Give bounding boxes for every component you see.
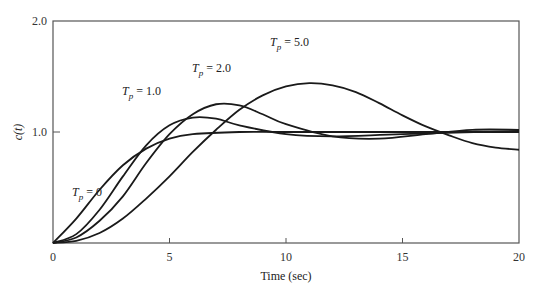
- series-label: Tp = 2.0: [192, 61, 231, 78]
- x-tick-label: 15: [397, 250, 409, 264]
- series-label: Tp = 1.0: [122, 84, 161, 101]
- series-label: Tp = 5.0: [270, 35, 309, 52]
- step-response-chart: 051015201.02.0Time (sec)c(t) Tp = 0Tp = …: [0, 0, 539, 287]
- x-tick-label: 20: [513, 250, 525, 264]
- y-axis-label: c(t): [11, 124, 25, 141]
- x-tick-label: 5: [167, 250, 173, 264]
- x-axis-label: Time (sec): [260, 269, 311, 283]
- curve-2: [53, 104, 519, 243]
- plot-curves: [53, 83, 519, 243]
- y-tick-label: 1.0: [32, 125, 47, 139]
- y-tick-label: 2.0: [32, 14, 47, 28]
- curve-0: [53, 132, 519, 243]
- x-tick-label: 0: [50, 250, 56, 264]
- curve-3: [53, 83, 519, 243]
- plot-axes: 051015201.02.0Time (sec)c(t): [11, 14, 525, 283]
- x-tick-label: 10: [280, 250, 292, 264]
- series-label: Tp = 0: [72, 185, 102, 202]
